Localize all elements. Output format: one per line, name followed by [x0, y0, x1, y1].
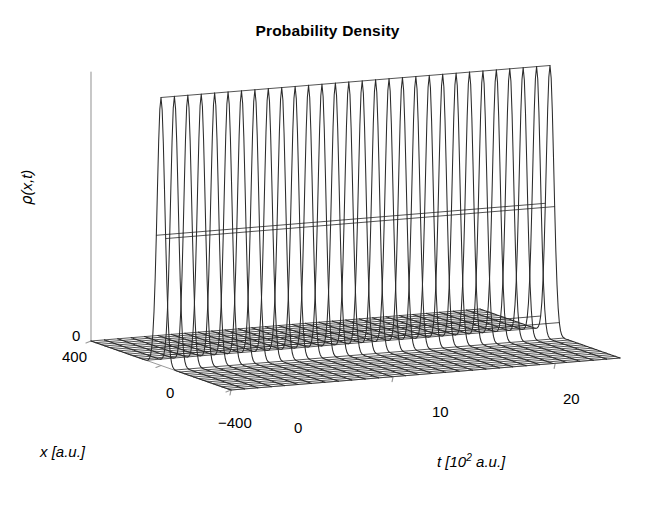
- t-axis-var: t: [437, 453, 441, 470]
- x-tick-neg400: −400: [218, 414, 252, 431]
- plot-surface: [0, 0, 655, 525]
- t-tick-0: 0: [294, 419, 302, 436]
- z-tick-0: 0: [72, 327, 80, 344]
- rho-args: (x,t): [18, 170, 35, 196]
- x-axis-var: x: [40, 443, 48, 460]
- t-axis-units-pre: [10: [445, 453, 466, 470]
- x-tick-400: 400: [62, 348, 87, 365]
- page-title: Probability Density: [0, 22, 655, 40]
- x-tick-0: 0: [166, 384, 174, 401]
- t-axis-units-post: a.u.]: [472, 453, 505, 470]
- rho-symbol: ρ: [18, 195, 36, 205]
- z-axis-title: ρ(x,t): [18, 170, 36, 205]
- x-axis-title: x [a.u.]: [40, 443, 85, 460]
- t-tick-20: 20: [563, 390, 580, 407]
- t-axis-title: t [102 a.u.]: [437, 453, 505, 470]
- figure-container: Probability Density ρ(x,t) 0 400 0 −400 …: [0, 0, 655, 525]
- x-axis-units: [a.u.]: [52, 443, 85, 460]
- waterfall-mesh: [91, 66, 620, 391]
- t-tick-10: 10: [432, 403, 449, 420]
